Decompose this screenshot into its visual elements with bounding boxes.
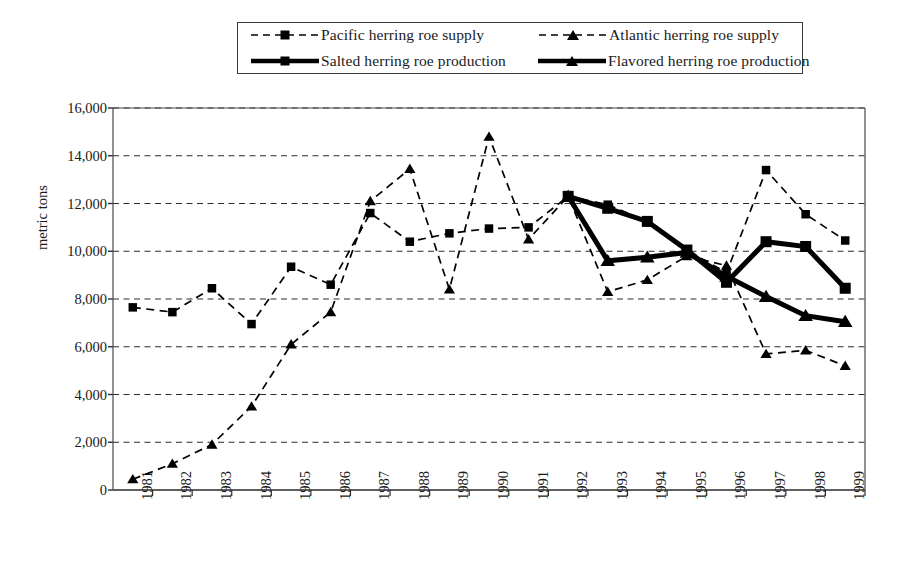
triangle-marker [246, 401, 257, 410]
square-marker [761, 236, 772, 247]
square-marker [326, 280, 335, 289]
square-marker [485, 224, 494, 233]
square-marker [445, 229, 454, 238]
triangle-marker [523, 234, 534, 243]
square-marker [129, 303, 138, 312]
triangle-marker [444, 284, 455, 293]
series-atlantic-herring-roe-supply [127, 131, 851, 483]
triangle-marker [642, 275, 653, 284]
square-marker [524, 223, 533, 232]
triangle-marker [206, 439, 217, 448]
chart-page: Pacific herring roe supply Atlantic herr… [0, 0, 914, 563]
square-marker [800, 241, 811, 252]
series-line [133, 170, 845, 324]
triangle-marker [602, 287, 613, 296]
square-marker [801, 210, 810, 219]
square-marker [642, 216, 653, 227]
square-marker [287, 263, 296, 272]
triangle-marker [127, 474, 138, 483]
square-marker [841, 236, 850, 245]
square-marker [168, 308, 177, 317]
series-line [133, 137, 845, 480]
series-pacific-herring-roe-supply [129, 166, 850, 328]
triangle-marker [483, 131, 494, 140]
triangle-marker [365, 196, 376, 205]
square-marker [602, 203, 613, 214]
square-marker [762, 166, 771, 175]
triangle-marker [167, 458, 178, 467]
square-marker [208, 284, 217, 293]
triangle-marker [325, 307, 336, 316]
chart-plot-area [0, 0, 914, 563]
series-salted-herring-roe-production [563, 191, 851, 294]
triangle-marker [840, 361, 851, 370]
square-marker [366, 209, 375, 218]
square-marker [840, 283, 851, 294]
triangle-marker [404, 164, 415, 173]
square-marker [247, 320, 256, 329]
square-marker [406, 237, 415, 246]
